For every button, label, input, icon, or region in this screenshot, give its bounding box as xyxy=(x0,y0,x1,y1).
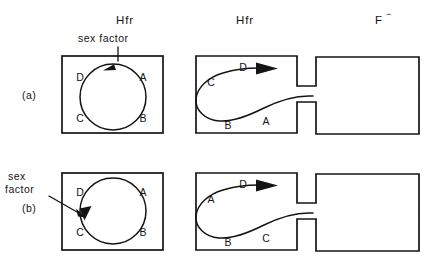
panel-a-sex-factor-label: sex factor xyxy=(78,32,129,44)
panel-a: (a) sex factor D A C B xyxy=(22,32,419,134)
panel-b-sex-factor-label-line2: factor xyxy=(5,183,34,195)
panel-a-transfer-gene-b: B xyxy=(224,119,231,131)
panel-b-label: (b) xyxy=(22,202,36,214)
panel-b-transfer-gene-b: B xyxy=(224,236,231,248)
panel-a-donor-transfer-cell: D C B A xyxy=(196,56,419,134)
panel-b-sex-factor-label-line1: sex xyxy=(8,170,26,182)
panel-b-circle-gene-d: D xyxy=(76,186,84,198)
panel-a-transfer-gene-a: A xyxy=(262,115,269,127)
panel-a-transfer-gene-c: C xyxy=(207,76,215,88)
panel-b-transfer-gene-c: C xyxy=(262,232,270,244)
panel-b-sex-factor-annotation: sex factor xyxy=(5,170,86,218)
panel-b-transfer-gene-d: D xyxy=(239,178,247,190)
panel-a-dna-leading-arrowhead xyxy=(256,63,278,75)
panel-b-circle-gene-c: C xyxy=(76,226,84,238)
panel-b-chromosome-circle xyxy=(80,178,146,244)
panel-a-circle-gene-c: C xyxy=(76,112,84,124)
header-f-minus-superscript: − xyxy=(386,9,391,19)
panel-a-circle-gene-b: B xyxy=(139,112,146,124)
panel-a-transfer-gene-d: D xyxy=(239,61,247,73)
panel-b-circle-gene-b: B xyxy=(139,226,146,238)
panel-a-chromosome-circle xyxy=(80,64,146,130)
header-f-minus: F − xyxy=(375,9,391,26)
panel-a-circle-gene-a: A xyxy=(139,71,146,83)
header-hfr-middle: Hfr xyxy=(236,14,254,26)
header-hfr-left: Hfr xyxy=(116,14,134,26)
panel-b-dna-leading-arrowhead xyxy=(256,180,278,192)
panel-a-label: (a) xyxy=(22,89,36,101)
panel-b-transfer-gene-a: A xyxy=(207,193,214,205)
panel-b-donor-transfer-cell: D A B C xyxy=(196,173,419,251)
header-f-minus-letter: F xyxy=(375,14,383,26)
figure-canvas: Hfr Hfr F − (a) sex factor D A xyxy=(0,0,437,262)
panel-a-donor-circle-cell: D A C B xyxy=(62,56,163,133)
panel-b: (b) sex factor D A C B xyxy=(5,170,419,251)
conjugation-figure: Hfr Hfr F − (a) sex factor D A xyxy=(0,0,437,262)
panel-a-circle-gene-d: D xyxy=(76,71,84,83)
panel-b-circle-gene-a: A xyxy=(139,186,146,198)
